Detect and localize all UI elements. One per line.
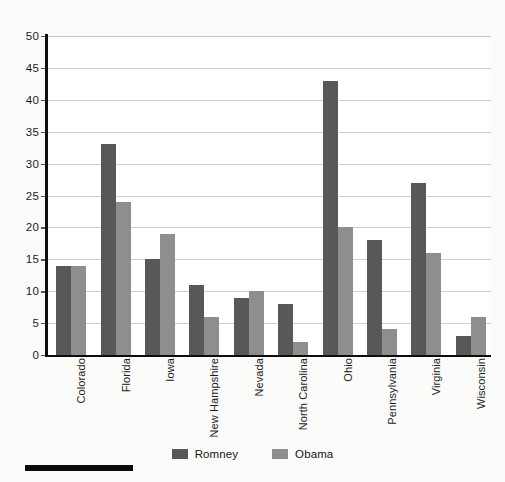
bar-romney-north-carolina: [278, 304, 293, 355]
bar-obama-nevada: [249, 291, 264, 355]
y-axis-tick-label: 0: [0, 349, 39, 361]
x-axis-label-florida: Florida: [120, 358, 132, 392]
x-axis-label-nevada: Nevada: [253, 358, 265, 397]
x-axis-label-wisconsin: Wisconsin: [475, 358, 487, 409]
bar-chart: 05101520253035404550 ColoradoFloridaIowa…: [0, 0, 505, 482]
footer-rule: [25, 465, 133, 471]
bar-group: [411, 36, 441, 355]
x-axis-label-north-carolina: North Carolina: [297, 358, 309, 430]
y-axis-tick-label: 35: [0, 126, 39, 138]
legend-item-romney[interactable]: Romney: [172, 448, 238, 460]
bar-group: [278, 36, 308, 355]
bar-romney-virginia: [411, 183, 426, 355]
bar-group: [145, 36, 175, 355]
bar-group: [189, 36, 219, 355]
x-axis-label-virginia: Virginia: [430, 358, 442, 395]
bar-group: [456, 36, 486, 355]
bar-obama-pennsylvania: [382, 329, 397, 355]
y-axis-tick-label: 25: [0, 190, 39, 202]
bar-obama-virginia: [426, 253, 441, 355]
bar-romney-pennsylvania: [367, 240, 382, 355]
legend-label-obama: Obama: [295, 448, 333, 460]
y-axis-tick-label: 20: [0, 221, 39, 233]
bar-romney-florida: [101, 144, 116, 355]
y-axis-tick-label: 5: [0, 317, 39, 329]
bar-romney-nevada: [234, 298, 249, 355]
bar-group: [101, 36, 131, 355]
x-axis-label-pennsylvania: Pennsylvania: [386, 358, 398, 425]
bar-romney-wisconsin: [456, 336, 471, 355]
bar-obama-colorado: [71, 266, 86, 355]
legend-swatch-romney: [172, 449, 188, 459]
bar-group: [367, 36, 397, 355]
bar-group: [56, 36, 86, 355]
bar-romney-colorado: [56, 266, 71, 355]
bar-obama-new-hampshire: [204, 317, 219, 355]
legend-label-romney: Romney: [195, 448, 238, 460]
bar-romney-iowa: [145, 259, 160, 355]
x-axis-label-colorado: Colorado: [75, 358, 87, 403]
bar-romney-ohio: [323, 81, 338, 355]
y-axis-tick-label: 10: [0, 285, 39, 297]
x-axis-label-ohio: Ohio: [342, 358, 354, 382]
bar-group: [323, 36, 353, 355]
bars-layer: [47, 36, 491, 355]
y-axis-tick-label: 50: [0, 30, 39, 42]
bar-obama-iowa: [160, 234, 175, 355]
bar-obama-florida: [116, 202, 131, 355]
x-axis-label-new-hampshire: New Hampshire: [208, 358, 220, 438]
bar-obama-north-carolina: [293, 342, 308, 355]
bar-obama-ohio: [338, 227, 353, 355]
x-axis-label-iowa: Iowa: [164, 358, 176, 382]
y-axis-tick-label: 45: [0, 62, 39, 74]
x-axis-labels-group: ColoradoFloridaIowaNew HampshireNevadaNo…: [47, 358, 491, 448]
y-axis-tick-label: 30: [0, 158, 39, 170]
y-axis-tick-label: 15: [0, 253, 39, 265]
legend-swatch-obama: [272, 449, 288, 459]
plot-wrapper: 05101520253035404550 ColoradoFloridaIowa…: [0, 0, 505, 482]
y-axis-tick-label: 40: [0, 94, 39, 106]
bar-group: [234, 36, 264, 355]
bar-obama-wisconsin: [471, 317, 486, 355]
chart-legend: RomneyObama: [0, 448, 505, 460]
bar-romney-new-hampshire: [189, 285, 204, 355]
legend-item-obama[interactable]: Obama: [272, 448, 333, 460]
